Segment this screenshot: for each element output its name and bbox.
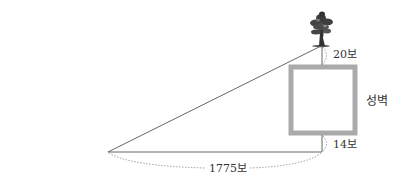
- wall-square: [291, 67, 355, 133]
- diagram-canvas: 20보 14보 1775보 성벽: [0, 0, 411, 188]
- top-distance-brace: [323, 47, 327, 64]
- diagram-svg: [0, 0, 411, 188]
- bottom-distance-brace: [323, 136, 327, 151]
- tree-icon: [310, 12, 333, 48]
- horizontal-distance-arc-left: [109, 153, 205, 168]
- bottom-distance-label: 14보: [333, 139, 357, 150]
- horizontal-distance-arc-right: [250, 153, 321, 168]
- wall-label: 성벽: [366, 95, 388, 107]
- top-distance-label: 20보: [333, 49, 357, 60]
- horizontal-distance-label: 1775보: [209, 163, 247, 174]
